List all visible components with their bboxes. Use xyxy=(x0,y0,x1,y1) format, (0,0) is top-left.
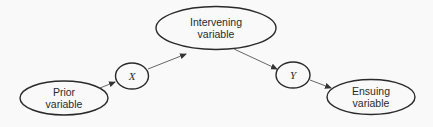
ensuing-label-line2: variable xyxy=(352,97,390,109)
ensuing-variable-label: Ensuing variable xyxy=(352,85,390,109)
causal-chain-diagram: Prior variable X Intervening variable Y … xyxy=(0,0,433,127)
intervening-label-line1: Intervening xyxy=(190,16,242,28)
intervening-variable-label: Intervening variable xyxy=(190,16,242,40)
edge-y-to-ensuing xyxy=(310,80,331,88)
edge-prior-to-x xyxy=(100,82,115,88)
prior-label-line2: variable xyxy=(46,98,83,110)
prior-label-line1: Prior xyxy=(46,86,83,98)
y-label: Y xyxy=(290,69,296,81)
edge-intervening-to-y xyxy=(234,49,277,69)
ensuing-label-line1: Ensuing xyxy=(352,85,390,97)
edge-x-to-intervening xyxy=(148,54,186,69)
prior-variable-label: Prior variable xyxy=(46,86,83,110)
intervening-label-line2: variable xyxy=(190,28,242,40)
x-label: X xyxy=(129,70,136,82)
